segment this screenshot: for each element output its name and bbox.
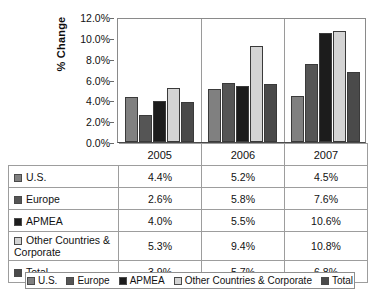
table-row-label-cell: U.S.: [9, 166, 119, 188]
y-tick-mark: [110, 101, 114, 102]
series-swatch-icon: [14, 218, 22, 226]
bar: [333, 31, 346, 142]
bar: [125, 97, 138, 142]
chart-legend: U.S.EuropeAPMEAOther Countries & Corpora…: [25, 272, 355, 289]
table-row-label: U.S.: [26, 171, 46, 183]
table-value-cell: 5.5%: [202, 210, 285, 232]
legend-swatch-icon: [66, 277, 74, 285]
bar-group: [284, 19, 367, 142]
table-corner-cell: [9, 144, 119, 166]
table-value-cell: 9.4%: [202, 232, 285, 261]
table-year-header: 2007: [285, 144, 368, 166]
table-value-cell: 5.3%: [119, 232, 202, 261]
table-year-header: 2006: [202, 144, 285, 166]
bar: [153, 101, 166, 142]
bar: [139, 115, 152, 142]
table-year-header: 2005: [119, 144, 202, 166]
y-tick-label: 4.0%: [86, 95, 110, 107]
bar: [291, 96, 304, 142]
group-separator: [201, 19, 202, 142]
table-row: U.S.4.4%5.2%4.5%: [9, 166, 368, 188]
table-row-label-cell: Europe: [9, 188, 119, 210]
group-separator: [284, 19, 285, 142]
legend-swatch-icon: [119, 277, 127, 285]
table-value-cell: 5.2%: [202, 166, 285, 188]
data-table-region: 200520062007U.S.4.4%5.2%4.5%Europe2.6%5.…: [8, 143, 368, 283]
table-body: 200520062007U.S.4.4%5.2%4.5%Europe2.6%5.…: [9, 144, 368, 283]
table-value-cell: 4.5%: [285, 166, 368, 188]
y-tick-mark: [110, 81, 114, 82]
bar: [181, 102, 194, 142]
y-tick-mark: [110, 18, 114, 19]
bar: [347, 72, 360, 142]
y-tick-label: 6.0%: [86, 75, 110, 87]
y-tick-label: 8.0%: [86, 54, 110, 66]
data-table: 200520062007U.S.4.4%5.2%4.5%Europe2.6%5.…: [8, 143, 368, 283]
bar-group: [201, 19, 284, 142]
table-value-cell: 2.6%: [119, 188, 202, 210]
bar: [305, 64, 318, 142]
bar: [222, 83, 235, 142]
table-value-cell: 10.6%: [285, 210, 368, 232]
legend-item: APMEA: [119, 275, 165, 286]
legend-label: APMEA: [130, 275, 165, 286]
table-row-label: Europe: [26, 193, 60, 205]
bar-chart: % Change 0.0%2.0%4.0%6.0%8.0%10.0%12.0%: [0, 0, 378, 143]
series-swatch-icon: [14, 174, 22, 182]
y-tick-label: 2.0%: [86, 116, 110, 128]
legend-label: Other Countries & Corporate: [185, 275, 312, 286]
legend-item: U.S.: [27, 275, 57, 286]
table-row-label: Other Countries & Corporate: [14, 234, 110, 258]
series-swatch-icon: [14, 237, 22, 245]
legend-label: Total: [332, 275, 353, 286]
table-row: Europe2.6%5.8%7.6%: [9, 188, 368, 210]
bar: [319, 33, 332, 142]
y-tick-mark: [110, 39, 114, 40]
y-tick-mark: [110, 60, 114, 61]
legend-item: Other Countries & Corporate: [174, 275, 312, 286]
table-value-cell: 5.8%: [202, 188, 285, 210]
y-tick-mark: [110, 122, 114, 123]
table-row-label-cell: Other Countries & Corporate: [9, 232, 119, 261]
legend-swatch-icon: [174, 277, 182, 285]
bar: [264, 84, 277, 142]
table-row: Other Countries & Corporate5.3%9.4%10.8%: [9, 232, 368, 261]
y-tick-label: 10.0%: [80, 33, 110, 45]
legend-swatch-icon: [27, 277, 35, 285]
series-swatch-icon: [14, 269, 22, 277]
table-value-cell: 10.8%: [285, 232, 368, 261]
table-row-label-cell: APMEA: [9, 210, 119, 232]
bar: [167, 88, 180, 142]
bar: [208, 89, 221, 142]
bar: [236, 86, 249, 142]
y-axis-ticks: 0.0%2.0%4.0%6.0%8.0%10.0%12.0%: [44, 12, 114, 148]
table-row-label: APMEA: [26, 215, 63, 227]
bar-group: [118, 19, 201, 142]
table-value-cell: 4.0%: [119, 210, 202, 232]
table-value-cell: 4.4%: [119, 166, 202, 188]
legend-item: Europe: [66, 275, 109, 286]
legend-label: U.S.: [38, 275, 57, 286]
table-value-cell: 7.6%: [285, 188, 368, 210]
table-row: APMEA4.0%5.5%10.6%: [9, 210, 368, 232]
series-swatch-icon: [14, 196, 22, 204]
legend-swatch-icon: [321, 277, 329, 285]
table-header-row: 200520062007: [9, 144, 368, 166]
bar: [250, 46, 263, 142]
plot-area: [117, 18, 366, 143]
legend-item: Total: [321, 275, 353, 286]
legend-label: Europe: [77, 275, 109, 286]
y-tick-label: 12.0%: [80, 12, 110, 24]
